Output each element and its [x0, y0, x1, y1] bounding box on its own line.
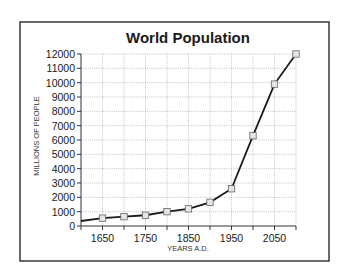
x-tick-label: 1650: [91, 232, 115, 244]
y-tick-label: 10000: [46, 77, 75, 89]
data-point-marker: [250, 133, 256, 139]
x-tick-label: 1750: [134, 232, 158, 244]
y-tick-label: 6000: [52, 134, 76, 146]
y-tick-label: 7000: [52, 120, 76, 132]
x-tick-label: 1950: [220, 232, 244, 244]
y-tick-label: 4000: [52, 163, 76, 175]
data-point-marker: [185, 206, 191, 212]
y-tick-label: 0: [69, 220, 75, 232]
chart-title: World Population: [126, 29, 250, 46]
data-point-marker: [207, 199, 213, 205]
x-tick-label: 1850: [177, 232, 201, 244]
y-tick-label: 5000: [52, 148, 76, 160]
data-point-marker: [164, 208, 170, 214]
y-tick-label: 1000: [52, 206, 76, 218]
data-point-marker: [121, 213, 127, 219]
y-tick-label: 9000: [52, 91, 76, 103]
y-axis-label: MILLIONS OF PEOPLE: [32, 96, 41, 176]
x-tick-label: 2050: [263, 232, 287, 244]
y-tick-label: 3000: [52, 177, 76, 189]
data-point-marker: [142, 212, 148, 218]
y-tick-label: 11000: [47, 62, 76, 74]
data-point-marker: [99, 215, 105, 221]
y-tick-label: 8000: [52, 105, 76, 117]
data-point-marker: [293, 51, 299, 57]
world-population-chart: World Population 01000200030004000500060…: [0, 0, 345, 277]
data-point-marker: [271, 81, 277, 87]
y-tick-label: 2000: [52, 191, 76, 203]
x-axis-label: YEARS A.D.: [167, 244, 209, 253]
y-tick-label: 12000: [46, 48, 75, 60]
data-point-marker: [228, 186, 234, 192]
